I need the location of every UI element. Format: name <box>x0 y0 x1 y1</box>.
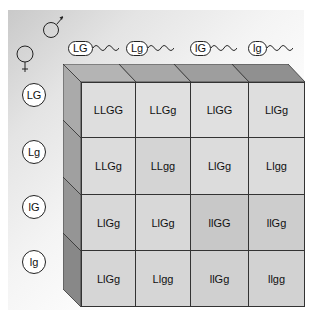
gamete-label: Lg <box>126 41 148 56</box>
male-gamete-lg: lg <box>248 40 293 56</box>
sperm-tail-icon <box>93 43 119 53</box>
sperm-tail-icon <box>148 43 174 53</box>
cell-r4-c2: Llgg <box>136 251 191 307</box>
cell-r4-c1: LlGg <box>81 251 136 307</box>
female-symbol-icon <box>15 44 35 74</box>
cell-r4-c4: llgg <box>249 251 305 307</box>
male-symbol-icon <box>42 14 66 40</box>
sperm-tail-icon <box>267 43 293 53</box>
cell-r3-c1: LlGg <box>81 195 136 251</box>
cell-r3-c3: llGG <box>191 195 249 251</box>
cell-r3-c4: llGg <box>249 195 305 251</box>
cell-r2-c3: LlGg <box>191 138 249 195</box>
male-gamete-LG: LG <box>68 40 119 56</box>
box-left-face <box>63 64 81 307</box>
female-gamete-lG: lG <box>22 195 46 219</box>
gamete-label: LG <box>68 41 93 56</box>
box-top-face <box>63 64 305 82</box>
male-gamete-lG: lG <box>190 40 237 56</box>
cell-r3-c2: LlGg <box>136 195 191 251</box>
female-gamete-Lg: Lg <box>22 140 46 164</box>
cell-r4-c3: llGg <box>191 251 249 307</box>
cell-r1-c1: LLGG <box>81 82 136 138</box>
gamete-label: lg <box>248 41 267 56</box>
female-gamete-LG: LG <box>22 83 46 107</box>
cell-r2-c2: LLgg <box>136 138 191 195</box>
cell-r1-c3: LlGG <box>191 82 249 138</box>
gamete-label: lG <box>190 41 211 56</box>
female-gamete-lg: lg <box>22 250 46 274</box>
punnett-grid: LLGG LLGg LlGG LlGg LLGg LLgg LlGg Llgg … <box>81 82 305 307</box>
sperm-tail-icon <box>211 43 237 53</box>
cell-r1-c2: LLGg <box>136 82 191 138</box>
cell-r2-c4: Llgg <box>249 138 305 195</box>
cell-r1-c4: LlGg <box>249 82 305 138</box>
cell-r2-c1: LLGg <box>81 138 136 195</box>
male-gamete-Lg: Lg <box>126 40 174 56</box>
